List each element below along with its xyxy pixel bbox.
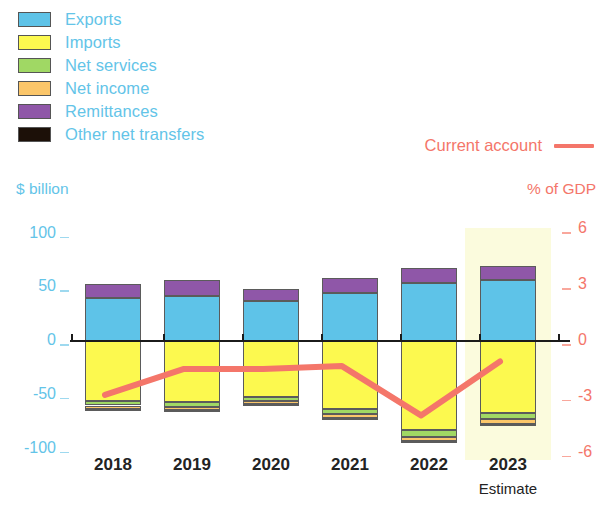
- x-axis-label-2019: 2019: [147, 455, 237, 475]
- left-axis-tick-mark-2: [60, 344, 69, 346]
- left-axis-tick-2: 0: [8, 331, 56, 349]
- bar-segment-imports-2018: [85, 341, 141, 401]
- x-axis-tick-mark-4: [479, 334, 481, 341]
- bar-segment-exports-2019: [164, 296, 220, 341]
- x-axis-tick-mark-1: [242, 334, 244, 341]
- bar-segment-other-net-transfers-2022: [401, 441, 457, 443]
- left-axis-tick-mark-3: [60, 398, 69, 400]
- zero-axis-line: [70, 340, 570, 342]
- bar-segment-exports-2023: [480, 280, 536, 341]
- bar-segment-other-net-transfers-2021: [322, 418, 378, 420]
- right-axis-tick-mark-3: [562, 400, 571, 402]
- right-axis-tick-2: 0: [578, 331, 608, 349]
- x-axis-label-2020: 2020: [226, 455, 316, 475]
- bar-segment-other-net-transfers-2020: [243, 404, 299, 406]
- bar-segment-other-net-transfers-2018: [85, 409, 141, 411]
- x-axis-label-2021: 2021: [305, 455, 395, 475]
- right-axis-tick-0: 6: [578, 219, 608, 237]
- x-axis-label-2018: 2018: [68, 455, 158, 475]
- bar-segment-other-net-transfers-2023: [480, 424, 536, 426]
- bar-segment-remittances-2022: [401, 268, 457, 283]
- left-axis-tick-4: -100: [8, 439, 56, 457]
- left-axis-tick-mark-0: [60, 237, 69, 239]
- left-axis-tick-mark-4: [60, 452, 69, 454]
- right-axis-tick-mark-1: [562, 288, 571, 290]
- left-axis-tick-3: -50: [8, 385, 56, 403]
- bar-segment-remittances-2021: [322, 278, 378, 293]
- right-axis-tick-mark-2: [562, 344, 571, 346]
- x-axis-tick-mark-0: [163, 334, 165, 341]
- bar-segment-remittances-2019: [164, 280, 220, 296]
- right-axis-tick-4: -6: [578, 443, 608, 461]
- bar-segment-exports-2020: [243, 301, 299, 341]
- bar-segment-imports-2023: [480, 341, 536, 413]
- bar-segment-remittances-2018: [85, 284, 141, 298]
- x-axis-tick-mark-5: [558, 334, 560, 341]
- left-axis-tick-1: 50: [8, 277, 56, 295]
- bar-segment-imports-2022: [401, 341, 457, 430]
- x-axis-label-2023: 2023: [463, 455, 553, 475]
- x-axis-label-2022: 2022: [384, 455, 474, 475]
- right-axis-tick-mark-0: [562, 232, 571, 234]
- x-axis-sublabel-2023: Estimate: [463, 480, 553, 497]
- bar-segment-exports-2018: [85, 298, 141, 341]
- bar-segment-imports-2020: [243, 341, 299, 397]
- bar-segment-other-net-transfers-2019: [164, 410, 220, 412]
- left-axis-tick-0: 100: [8, 224, 56, 242]
- x-axis-tick-mark-2: [321, 334, 323, 341]
- current-account-chart: Exports Imports Net services Net income …: [0, 0, 608, 508]
- plot-area: 100500-50-100630-3-620182019202020212022…: [0, 0, 608, 508]
- right-axis-tick-3: -3: [578, 387, 608, 405]
- bar-segment-remittances-2020: [243, 289, 299, 301]
- right-axis-tick-1: 3: [578, 275, 608, 293]
- bar-segment-imports-2021: [322, 341, 378, 409]
- bar-segment-imports-2019: [164, 341, 220, 402]
- bar-segment-exports-2021: [322, 293, 378, 341]
- bar-segment-remittances-2023: [480, 266, 536, 280]
- right-axis-tick-mark-4: [562, 456, 571, 458]
- x-axis-tick-mark-origin: [71, 334, 73, 341]
- left-axis-tick-mark-1: [60, 290, 69, 292]
- bar-segment-exports-2022: [401, 283, 457, 341]
- x-axis-tick-mark-3: [400, 334, 402, 341]
